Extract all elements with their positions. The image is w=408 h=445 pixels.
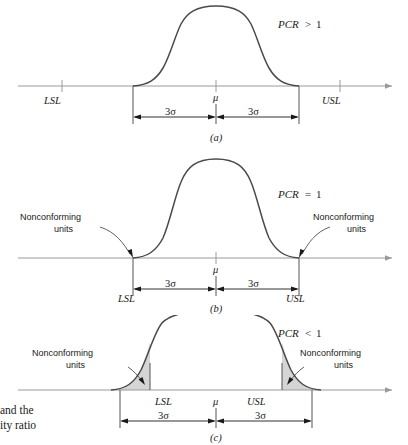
label-pcr-value-a: 1 (316, 18, 322, 30)
axis-arrowhead-b (385, 255, 392, 261)
label-mu-b: μ (212, 264, 218, 275)
label-3sigma-right-a: 3σ (248, 106, 259, 117)
label-nonconforming-right-line1-c: Nonconforming (300, 348, 361, 358)
normal-curve-b (133, 159, 299, 258)
label-lsl-a: LSL (43, 95, 61, 106)
label-pcr-value-c: 1 (316, 327, 322, 339)
normal-curve-a (133, 6, 299, 86)
label-3sigma-left-b: 3σ (165, 278, 176, 289)
label-3sigma-left-a: 3σ (165, 106, 176, 117)
label-nonconforming-right-line2-b: units (347, 224, 367, 234)
axis-arrowhead-a (385, 83, 392, 89)
label-pcr-operator-b: = (305, 188, 311, 200)
label-nonconforming-right-line2-c: units (334, 360, 354, 370)
margin-text-line-2: ity ratio (0, 419, 36, 432)
caption-c: (c) (210, 432, 222, 444)
panel-b: Nonconforming units Nonconforming units … (0, 150, 408, 302)
label-pcr-operator-a: > (305, 18, 311, 30)
label-pcr-value-b: 1 (316, 188, 322, 200)
label-lsl-c: LSL (154, 396, 172, 407)
label-pcr-operator-c: < (305, 327, 311, 339)
label-usl-c: USL (247, 396, 266, 407)
callout-nonconforming-right-b (299, 227, 330, 258)
label-pcr-a: PCR (277, 18, 299, 30)
label-3sigma-right-b: 3σ (248, 278, 259, 289)
label-nonconforming-left-line1-c: Nonconforming (32, 348, 93, 358)
label-mu-c: μ (212, 396, 218, 407)
label-3sigma-left-c: 3σ (158, 410, 169, 421)
margin-text-line-1: and the (0, 404, 34, 417)
label-nonconforming-left-line1-b: Nonconforming (20, 212, 81, 222)
caption-a: (a) (210, 132, 223, 144)
label-nonconforming-right-line1-b: Nonconforming (313, 212, 374, 222)
label-pcr-b: PCR (277, 188, 299, 200)
label-pcr-c: PCR (277, 327, 299, 339)
panel-c: Nonconforming units Nonconforming units … (0, 315, 408, 445)
panel-a: LSL USL μ 3σ 3σ PCR > 1 (a) (0, 0, 408, 148)
axis-arrowhead-c (385, 387, 392, 393)
label-usl-a: USL (322, 95, 341, 106)
figure-process-capability-ratio: LSL USL μ 3σ 3σ PCR > 1 (a) (0, 0, 408, 445)
label-mu-a: μ (212, 92, 218, 103)
callout-nonconforming-left-b (100, 227, 133, 258)
caption-b: (b) (210, 303, 223, 315)
label-3sigma-right-c: 3σ (255, 410, 266, 421)
label-nonconforming-left-line2-c: units (66, 360, 86, 370)
label-nonconforming-left-line2-b: units (54, 224, 74, 234)
